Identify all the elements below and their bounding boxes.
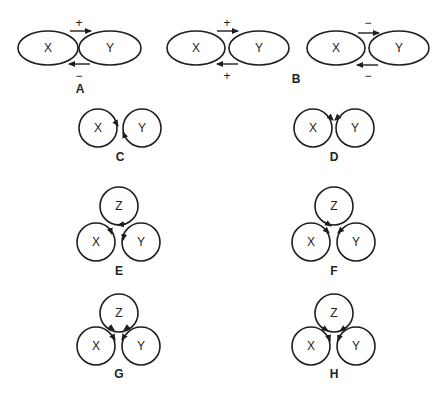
sign-bottom: − [364, 69, 371, 83]
panel-label-e: E [115, 264, 123, 278]
node-x-label: X [192, 41, 200, 55]
panel-g: Z X Y G [77, 294, 160, 381]
node-y-label: Y [352, 339, 360, 353]
node-y-label: Y [352, 235, 360, 249]
arrow-z-icon [118, 224, 126, 225]
node-z-label: Z [115, 306, 122, 320]
node-x-label: X [92, 235, 100, 249]
node-z-label: Z [115, 199, 122, 213]
node-y-label: Y [137, 339, 145, 353]
arrow-y-icon [338, 335, 340, 341]
node-y-label: Y [395, 41, 403, 55]
node-y-label: Y [106, 41, 114, 55]
panel-label-c: C [116, 150, 125, 164]
node-y-label: Y [351, 121, 359, 135]
panel-c: X Y C [79, 109, 161, 164]
node-x-label: X [307, 339, 315, 353]
panel-label-a: A [76, 82, 85, 96]
node-x-label: X [307, 235, 315, 249]
sign-bottom: − [75, 69, 82, 83]
arrow-x-icon [110, 229, 112, 234]
node-y-label: Y [255, 41, 263, 55]
panel-label-h: H [330, 367, 339, 381]
node-x-label: X [94, 121, 102, 135]
node-x-label: X [44, 41, 52, 55]
panel-label-f: F [330, 264, 337, 278]
node-z-label: Z [330, 306, 337, 320]
node-y-label: Y [138, 121, 146, 135]
panel-b-negative: X Y − − [307, 16, 429, 83]
arrow-y-icon [123, 235, 124, 240]
panel-e: Z X Y E [77, 187, 160, 278]
sign-top: − [364, 16, 371, 30]
node-x-label: X [332, 41, 340, 55]
node-x-label: X [92, 339, 100, 353]
sign-top: + [223, 16, 230, 30]
panel-label-g: G [114, 367, 123, 381]
feedback-loop-diagram: X Y + − A X Y + + B X Y − − X Y C [0, 0, 446, 397]
panel-label-d: D [330, 150, 339, 164]
panel-f: Z X Y F [292, 187, 375, 278]
node-z-label: Z [330, 199, 337, 213]
node-x-label: X [309, 121, 317, 135]
panel-label-b: B [292, 72, 301, 86]
sign-bottom: + [223, 69, 230, 83]
panel-d: X Y D [294, 109, 374, 164]
panel-a: X Y + − A [18, 16, 141, 96]
sign-top: + [75, 16, 82, 30]
arrow-y-down-icon [123, 132, 125, 137]
node-y-label: Y [137, 235, 145, 249]
panel-h: Z X Y H [292, 294, 375, 381]
panel-b: X Y + + B [167, 16, 301, 86]
